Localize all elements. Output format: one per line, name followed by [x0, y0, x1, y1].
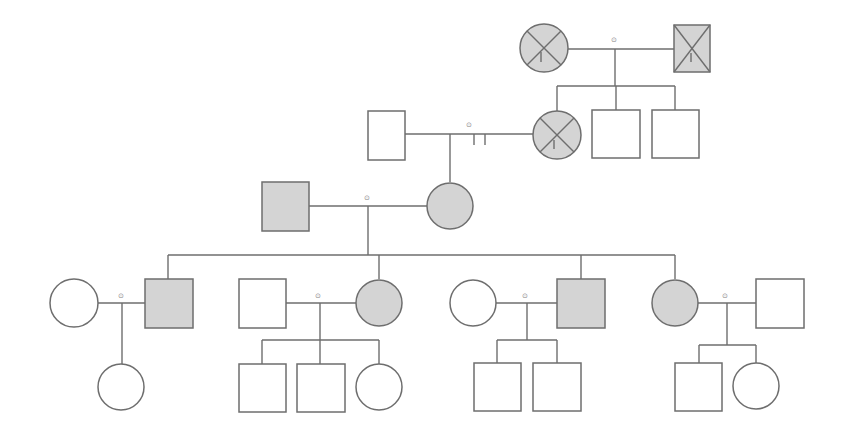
- individual-IV-8-male[interactable]: [756, 279, 804, 328]
- generation-1: ⊙: [520, 24, 710, 86]
- marriage-glyph: ⊙: [364, 194, 370, 202]
- individual-V-3-male[interactable]: [297, 364, 345, 412]
- individual-IV-3-male[interactable]: [239, 279, 286, 328]
- generation-5: [98, 340, 779, 412]
- individual-V-5-male[interactable]: [474, 363, 521, 411]
- individual-V-6-male[interactable]: [533, 363, 581, 411]
- individual-III-2-female-affected[interactable]: [427, 183, 473, 229]
- individual-II-4-male[interactable]: [652, 110, 699, 158]
- individual-II-1-male[interactable]: [368, 111, 405, 160]
- individual-IV-7-female-affected[interactable]: [652, 280, 698, 326]
- generation-3: ⊙: [262, 182, 473, 255]
- generation-2: ⊙: [368, 110, 699, 182]
- individual-III-1-male-affected[interactable]: [262, 182, 309, 231]
- individual-IV-6-male-affected[interactable]: [557, 279, 605, 328]
- individual-IV-4-female-affected[interactable]: [356, 280, 402, 326]
- individual-IV-1-female[interactable]: [50, 279, 98, 327]
- individual-V-4-female[interactable]: [356, 364, 402, 410]
- individual-V-2-male[interactable]: [239, 364, 286, 412]
- individual-V-8-female[interactable]: [733, 363, 779, 409]
- individual-I-1-female-affected-deceased[interactable]: [520, 24, 568, 72]
- individual-I-2-male-affected-deceased[interactable]: [674, 25, 710, 72]
- individual-II-2-female-affected-deceased[interactable]: [533, 111, 581, 159]
- individual-II-3-male[interactable]: [592, 110, 640, 158]
- generation-4: ⊙ ⊙ ⊙ ⊙: [50, 279, 804, 365]
- marriage-glyph: ⊙: [722, 292, 728, 300]
- pedigree-chart: ⊙ ⊙: [0, 0, 846, 439]
- marriage-glyph: ⊙: [315, 292, 321, 300]
- individual-V-1-female[interactable]: [98, 364, 144, 410]
- individual-V-7-male[interactable]: [675, 363, 722, 411]
- marriage-glyph: ⊙: [466, 121, 472, 129]
- individual-IV-2-male-affected[interactable]: [145, 279, 193, 328]
- marriage-glyph: ⊙: [118, 292, 124, 300]
- marriage-glyph: ⊙: [522, 292, 528, 300]
- individual-IV-5-female[interactable]: [450, 280, 496, 326]
- marriage-glyph: ⊙: [611, 36, 617, 44]
